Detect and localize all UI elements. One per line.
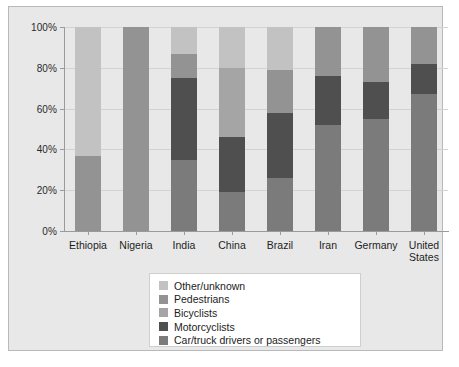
bar-segment (267, 70, 293, 113)
legend-item[interactable]: Bicyclists (159, 306, 360, 320)
bar-segment (219, 27, 245, 68)
bar-segment (267, 178, 293, 231)
gridline (64, 190, 448, 191)
bar-segment (315, 125, 341, 231)
plot-area: 0%20%40%60%80%100%EthiopiaNigeriaIndiaCh… (64, 27, 448, 231)
gridline (64, 109, 448, 110)
legend-label: Pedestrians (174, 293, 229, 305)
bar-germany[interactable] (363, 27, 389, 231)
bar-segment (363, 27, 389, 82)
bar-segment (171, 160, 197, 231)
x-axis-line (64, 231, 449, 232)
bar-segment (219, 192, 245, 231)
bar-segment (171, 78, 197, 160)
gridline (64, 27, 448, 28)
legend-item[interactable]: Motorcyclists (159, 320, 360, 334)
y-axis-label: 20% (37, 185, 57, 196)
legend-swatch-icon (159, 336, 168, 345)
bar-segment (123, 27, 149, 231)
bar-segment (315, 27, 341, 76)
bar-segment (411, 94, 437, 231)
y-axis-label: 60% (37, 103, 57, 114)
bar-united-states[interactable] (411, 27, 437, 231)
bar-segment (171, 54, 197, 78)
bar-segment (75, 156, 101, 231)
legend-swatch-icon (159, 281, 168, 290)
bar-nigeria[interactable] (123, 27, 149, 231)
x-axis-label: United States (389, 239, 459, 263)
y-axis-label: 0% (42, 226, 57, 237)
bar-iran[interactable] (315, 27, 341, 231)
bar-segment (267, 113, 293, 178)
bar-segment (171, 27, 197, 54)
bar-segment (219, 137, 245, 192)
y-axis-label: 100% (31, 22, 57, 33)
chart-frame: 0%20%40%60%80%100%EthiopiaNigeriaIndiaCh… (8, 6, 443, 351)
legend-item[interactable]: Pedestrians (159, 293, 360, 307)
legend-label: Bicyclists (174, 307, 217, 319)
gridline (64, 149, 448, 150)
legend-swatch-icon (159, 295, 168, 304)
bar-segment (219, 68, 245, 137)
legend-label: Other/unknown (174, 280, 245, 292)
bar-india[interactable] (171, 27, 197, 231)
legend-label: Motorcyclists (174, 321, 235, 333)
legend-item[interactable]: Other/unknown (159, 279, 360, 293)
bar-ethiopia[interactable] (75, 27, 101, 231)
bar-segment (363, 82, 389, 119)
bar-segment (363, 119, 389, 231)
chart-legend: Other/unknownPedestriansBicyclistsMotorc… (149, 273, 361, 347)
bar-segment (411, 64, 437, 95)
legend-label: Car/truck drivers or passengers (174, 334, 320, 346)
bar-segment (315, 76, 341, 125)
legend-swatch-icon (159, 322, 168, 331)
gridline (64, 68, 448, 69)
y-axis-label: 80% (37, 62, 57, 73)
bar-segment (75, 27, 101, 156)
bar-segment (411, 27, 437, 64)
legend-swatch-icon (159, 308, 168, 317)
y-axis-line (64, 27, 65, 232)
y-axis-label: 40% (37, 144, 57, 155)
legend-item[interactable]: Car/truck drivers or passengers (159, 333, 360, 347)
bar-china[interactable] (219, 27, 245, 231)
bar-segment (267, 27, 293, 70)
bar-brazil[interactable] (267, 27, 293, 231)
